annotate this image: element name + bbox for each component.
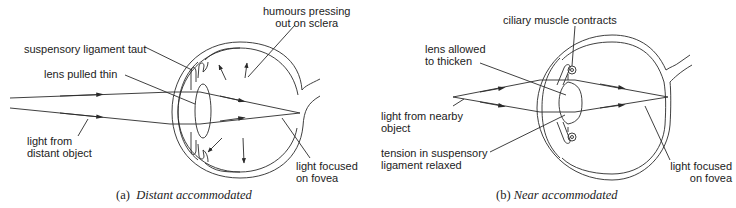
label-line: humours pressing: [263, 5, 350, 17]
caption-letter: (a): [116, 188, 130, 202]
accommodation-diagram: [0, 0, 736, 208]
label-line: out on sclera: [263, 17, 350, 29]
cornea: [542, 58, 560, 158]
label-humours-pressing-out: humours pressing out on sclera: [263, 5, 350, 29]
label-light-from-distant-object: light from distant object: [27, 135, 92, 159]
label-line: tension in suspensory: [381, 147, 487, 159]
label-line: on fovea: [670, 172, 732, 184]
label-ciliary-muscle-contracts: ciliary muscle contracts: [503, 14, 617, 26]
label-line: light focused: [670, 160, 732, 172]
label-suspensory-ligament-taut: suspensory ligament taut: [24, 43, 146, 55]
label-line: lens allowed: [425, 43, 486, 55]
optic-nerve: [302, 79, 320, 90]
sclera-inner: [178, 48, 298, 172]
label-line: light focused: [296, 160, 358, 172]
label-line: light from nearby: [381, 110, 463, 122]
label-light-focused-on-fovea-a: light focused on fovea: [296, 160, 358, 184]
caption-a: (a) Distant accommodated: [116, 188, 252, 203]
sclera-outer: [172, 42, 303, 178]
label-light-from-nearby-object: light from nearby object: [381, 110, 463, 134]
label-light-focused-on-fovea-b: light focused on fovea: [670, 160, 732, 184]
eye-near-accommodated: [453, 26, 692, 180]
caption-letter: (b): [496, 188, 511, 202]
label-tension-in-suspensory-ligament: tension in suspensory ligament relaxed: [381, 147, 487, 171]
light-ray-upper: [453, 80, 668, 97]
sclera-inner: [562, 42, 664, 82]
caption-text: Near accommodated: [514, 188, 618, 202]
label-line: to thicken: [425, 55, 486, 67]
label-line: distant object: [27, 147, 92, 159]
caption-b: (b) Near accommodated: [496, 188, 618, 203]
optic-nerve: [666, 55, 690, 70]
light-ray-lower: [10, 108, 300, 124]
lens-thick: [559, 82, 582, 124]
label-line: object: [381, 122, 463, 134]
label-lens-pulled-thin: lens pulled thin: [44, 68, 117, 80]
label-lens-allowed-to-thicken: lens allowed to thicken: [425, 43, 486, 67]
label-line: on fovea: [296, 172, 358, 184]
light-ray-upper: [10, 92, 300, 113]
caption-text: Distant accommodated: [136, 188, 252, 202]
label-line: ligament relaxed: [381, 159, 487, 171]
label-line: light from: [27, 135, 92, 147]
light-ray-lower: [453, 97, 668, 112]
